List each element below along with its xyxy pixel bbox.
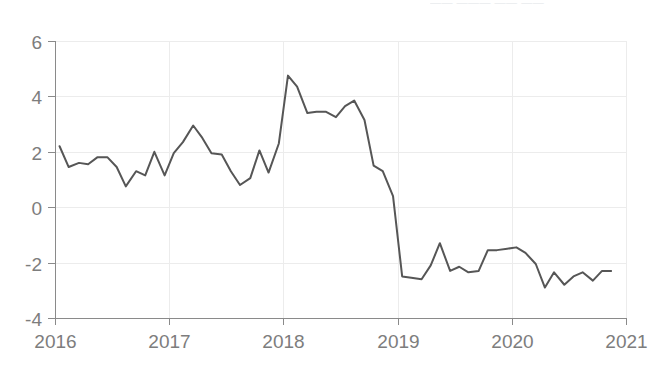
x-tick-label: 2021 bbox=[605, 331, 647, 352]
x-tick-label: 2017 bbox=[148, 331, 190, 352]
x-tick-label: 2019 bbox=[377, 331, 419, 352]
x-tick-label: 2020 bbox=[491, 331, 533, 352]
y-tick-label: 2 bbox=[31, 143, 42, 164]
x-axis-tick-labels: 201620172018201920202021 bbox=[34, 331, 647, 352]
x-tick-label: 2018 bbox=[262, 331, 304, 352]
clipped-header-text: —— ——— —— —— bbox=[430, 0, 645, 4]
y-tick-label: 6 bbox=[31, 32, 42, 53]
y-axis-ticks bbox=[48, 42, 55, 319]
x-tick-label: 2016 bbox=[34, 331, 76, 352]
y-tick-label: -4 bbox=[25, 309, 42, 330]
y-tick-label: 4 bbox=[31, 87, 42, 108]
y-tick-label: -2 bbox=[25, 254, 42, 275]
data-series-line bbox=[60, 76, 612, 288]
y-tick-label: 0 bbox=[31, 198, 42, 219]
chart-container: —— ——— —— —— 6420-2-4 201620172018201920… bbox=[0, 0, 651, 378]
line-chart: 6420-2-4 201620172018201920202021 bbox=[0, 0, 651, 378]
y-axis-tick-labels: 6420-2-4 bbox=[25, 32, 42, 330]
